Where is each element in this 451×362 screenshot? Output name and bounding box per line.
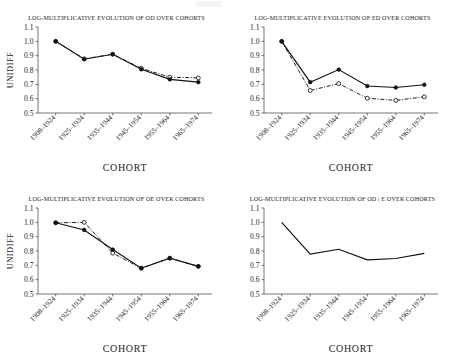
x-tick-label: 1908–1924 [29,113,58,142]
y-tick-label: 0.5 [24,290,34,299]
y-tick-label: 0.6 [250,94,260,103]
x-tick-label: 1965–1974 [171,294,200,323]
data-point-marker [54,39,58,43]
data-point-marker [168,77,172,81]
series-line-conditional [282,222,425,260]
x-tick-label: 1945–1954 [114,294,143,323]
x-tick-label: 1945–1954 [340,113,369,142]
y-tick-label: 1.0 [24,37,34,46]
data-point-marker [337,82,341,86]
y-axis-title: UNIDIFF [6,233,15,270]
x-tick-label: 1945–1954 [114,113,143,142]
x-tick-label: 1965–1974 [171,113,200,142]
x-tick-label: 1925–1934 [283,294,312,323]
data-point-marker [168,256,172,260]
chart-title: LOG-MULTIPLICATIVE EVOLUTION OF OD | E O… [250,196,436,202]
y-tick-label: 0.9 [24,51,34,60]
y-tick-label: 0.9 [250,232,260,241]
x-tick-label: 1965–1974 [397,294,426,323]
data-point-marker [139,266,143,270]
x-axis-title: COHORT [329,162,374,173]
y-tick-label: 0.8 [250,247,260,256]
data-point-marker [365,84,369,88]
x-tick-label: 1945–1954 [340,294,369,323]
x-tick-label: 1935–1944 [86,294,115,323]
y-tick-label: 0.6 [250,275,260,284]
x-tick-label: 1908–1924 [255,294,284,323]
x-tick-label: 1925–1934 [57,113,86,142]
x-tick-label: 1935–1944 [312,113,341,142]
data-point-marker [365,96,369,100]
y-tick-label: 0.8 [24,66,34,75]
x-axis-title: COHORT [329,343,374,354]
x-tick-label: 1965–1974 [397,113,426,142]
data-point-marker [82,57,86,61]
data-point-marker [308,89,312,93]
x-tick-label: 1935–1944 [312,294,341,323]
data-point-marker [337,68,341,72]
y-tick-label: 0.8 [250,66,260,75]
data-point-marker [82,228,86,232]
y-tick-label: 1.0 [24,218,34,227]
series-line-fitted [56,41,199,78]
y-tick-label: 0.5 [24,109,34,118]
x-tick-label: 1955–1964 [143,113,172,142]
y-tick-label: 0.6 [24,275,34,284]
series-line-observed [56,41,199,82]
y-tick-label: 0.7 [250,80,260,89]
y-tick-label: 0.7 [24,261,34,270]
series-line-observed [282,41,425,87]
y-tick-label: 0.6 [24,94,34,103]
y-tick-label: 0.5 [250,109,260,118]
data-point-marker [196,80,200,84]
data-point-marker [308,80,312,84]
x-tick-label: 1908–1924 [255,113,284,142]
x-tick-label: 1955–1964 [369,113,398,142]
y-tick-label: 0.9 [250,51,260,60]
data-point-marker [394,86,398,90]
y-tick-label: 0.8 [24,247,34,256]
data-point-marker [422,95,426,99]
data-point-marker [196,76,200,80]
y-tick-label: 1.0 [250,37,260,46]
x-tick-label: 1925–1934 [57,294,86,323]
data-point-marker [422,83,426,87]
x-axis-title: COHORT [103,162,148,173]
y-tick-label: 0.7 [250,261,260,270]
y-tick-label: 0.9 [24,232,34,241]
chart-panel-od: LOG-MULTIPLICATIVE EVOLUTION OF OD OVER … [0,0,225,181]
y-axis-title: UNIDIFF [6,52,15,89]
y-tick-label: 1.1 [250,204,260,213]
y-tick-label: 1.1 [250,23,260,32]
x-tick-label: 1925–1934 [283,113,312,142]
series-line-fitted [56,222,199,268]
y-tick-label: 1.1 [24,23,34,32]
chart-panel-oe: LOG-MULTIPLICATIVE EVOLUTION OF OE OVER … [0,181,225,362]
y-tick-label: 1.1 [24,204,34,213]
data-point-marker [54,221,58,225]
x-tick-label: 1935–1944 [86,113,115,142]
data-point-marker [196,264,200,268]
chart-title: LOG-MULTIPLICATIVE EVOLUTION OF OD OVER … [28,15,205,21]
data-point-marker [111,251,115,255]
y-tick-label: 0.5 [250,290,260,299]
chart-panel-ed: LOG-MULTIPLICATIVE EVOLUTION OF ED OVER … [226,0,451,181]
figure-page: LOG-MULTIPLICATIVE EVOLUTION OF OD OVER … [0,0,451,362]
data-point-marker [139,67,143,71]
x-tick-label: 1955–1964 [143,294,172,323]
data-point-marker [111,52,115,56]
y-tick-label: 0.7 [24,80,34,89]
chart-title: LOG-MULTIPLICATIVE EVOLUTION OF OE OVER … [29,196,205,202]
x-tick-label: 1955–1964 [369,294,398,323]
series-line-fitted [282,41,425,100]
series-line-observed [56,223,199,268]
chart-panel-od-given-e: LOG-MULTIPLICATIVE EVOLUTION OF OD | E O… [226,181,451,362]
data-point-marker [394,98,398,102]
data-point-marker [111,248,115,252]
y-tick-label: 1.0 [250,218,260,227]
x-axis-title: COHORT [103,343,148,354]
data-point-marker [82,220,86,224]
chart-title: LOG-MULTIPLICATIVE EVOLUTION OF ED OVER … [255,15,431,21]
x-tick-label: 1908–1924 [29,294,58,323]
data-point-marker [280,39,284,43]
